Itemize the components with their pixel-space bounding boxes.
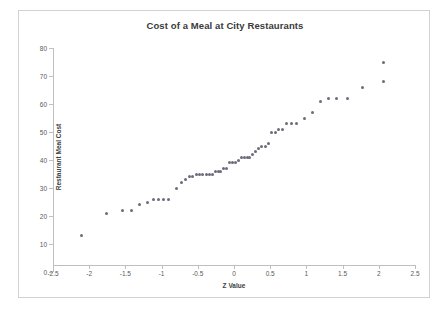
- y-tick-label: 40: [40, 157, 47, 164]
- x-tick-label: 1.5: [338, 270, 347, 277]
- data-point: [191, 175, 194, 178]
- y-tick-mark: [49, 160, 53, 161]
- data-point: [382, 61, 385, 64]
- x-tick-label: 0: [232, 270, 236, 277]
- data-point: [260, 145, 263, 148]
- y-axis-title: Restaurant Meal Cost: [55, 123, 62, 189]
- data-point: [251, 153, 254, 156]
- data-point: [234, 161, 237, 164]
- x-tick-mark: [162, 265, 163, 269]
- data-point: [211, 173, 214, 176]
- x-tick-mark: [415, 265, 416, 269]
- data-point: [311, 111, 314, 114]
- data-point: [175, 187, 178, 190]
- screenshot-root: Cost of a Meal at City Restaurants 01020…: [0, 0, 446, 310]
- data-point: [327, 97, 330, 100]
- x-tick-mark: [379, 265, 380, 269]
- chart-title: Cost of a Meal at City Restaurants: [19, 20, 431, 31]
- x-tick-label: 2.5: [410, 270, 419, 277]
- x-tick-mark: [306, 265, 307, 269]
- data-point: [130, 209, 133, 212]
- data-point: [138, 203, 141, 206]
- y-tick-mark: [49, 188, 53, 189]
- y-tick-mark: [49, 76, 53, 77]
- data-point: [346, 97, 349, 100]
- x-tick-label: -0.5: [192, 270, 203, 277]
- data-point: [152, 198, 155, 201]
- data-point: [290, 122, 293, 125]
- data-point: [225, 167, 228, 170]
- data-point: [274, 131, 277, 134]
- y-tick-label: 50: [40, 129, 47, 136]
- data-point: [281, 128, 284, 131]
- x-tick-mark: [125, 265, 126, 269]
- y-tick-label: 20: [40, 213, 47, 220]
- y-tick-mark: [49, 132, 53, 133]
- y-tick-label: 70: [40, 73, 47, 80]
- x-tick-mark: [270, 265, 271, 269]
- x-tick-label: -1.5: [120, 270, 131, 277]
- data-point: [285, 122, 288, 125]
- x-tick-mark: [198, 265, 199, 269]
- plot-area: 01020304050607080 -2.5-2-1.5-1-0.500.511…: [53, 41, 415, 272]
- data-point: [121, 209, 124, 212]
- data-point: [319, 100, 322, 103]
- data-point: [254, 150, 257, 153]
- data-point: [270, 131, 273, 134]
- data-point: [267, 142, 270, 145]
- data-point: [201, 173, 204, 176]
- x-tick-label: 1: [305, 270, 309, 277]
- data-point: [382, 80, 385, 83]
- y-tick-label: 30: [40, 185, 47, 192]
- x-tick-mark: [89, 265, 90, 269]
- data-point: [277, 128, 280, 131]
- data-point: [157, 198, 160, 201]
- data-point: [184, 178, 187, 181]
- y-tick-label: 80: [40, 45, 47, 52]
- data-point: [162, 198, 165, 201]
- data-point: [295, 122, 298, 125]
- x-tick-label: -1: [159, 270, 165, 277]
- x-tick-label: 2: [377, 270, 381, 277]
- chart-frame: Cost of a Meal at City Restaurants 01020…: [18, 10, 430, 298]
- x-tick-label: -2: [86, 270, 92, 277]
- data-point: [335, 97, 338, 100]
- data-point: [248, 156, 251, 159]
- data-point: [303, 117, 306, 120]
- x-tick-label: -2.5: [47, 270, 58, 277]
- y-tick-mark: [49, 216, 53, 217]
- data-point: [257, 147, 260, 150]
- data-point: [188, 175, 191, 178]
- y-tick-mark: [49, 244, 53, 245]
- x-tick-mark: [53, 265, 54, 269]
- data-point: [105, 212, 108, 215]
- y-tick-mark: [49, 104, 53, 105]
- data-point: [195, 173, 198, 176]
- x-tick-mark: [343, 265, 344, 269]
- data-point: [167, 198, 170, 201]
- data-point: [264, 145, 267, 148]
- y-tick-mark: [49, 48, 53, 49]
- data-point: [237, 159, 240, 162]
- x-tick-mark: [234, 265, 235, 269]
- x-tick-label: 0.5: [266, 270, 275, 277]
- data-point: [361, 86, 364, 89]
- data-point: [180, 181, 183, 184]
- data-point: [146, 201, 149, 204]
- data-point: [80, 234, 83, 237]
- y-tick-label: 10: [40, 241, 47, 248]
- x-axis-title: Z Value: [53, 282, 415, 289]
- data-point: [219, 170, 222, 173]
- y-tick-label: 60: [40, 101, 47, 108]
